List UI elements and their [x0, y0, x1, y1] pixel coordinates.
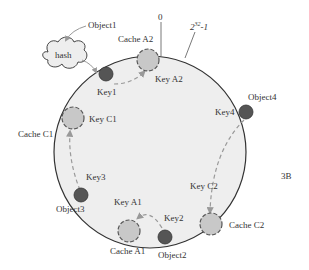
key3-label: Key3 [86, 172, 106, 182]
object4-label: Object4 [248, 92, 277, 102]
cache-a1-node [118, 220, 140, 242]
hash-cloud: hash [43, 37, 87, 68]
cache-c2-node [200, 213, 222, 235]
cache-a2-key-label: Key A2 [155, 74, 183, 84]
key1-node [99, 67, 113, 81]
cache-c1-label: Cache C1 [18, 129, 53, 139]
cache-a1-key-label: Key A1 [114, 197, 142, 207]
key2-label: Key2 [164, 213, 184, 223]
cache-c1-key-label: Key C1 [89, 114, 117, 124]
ring-max-tick [185, 32, 195, 58]
key2-node [158, 230, 172, 244]
key4-label: Key4 [215, 107, 235, 117]
key3-node [74, 188, 88, 202]
figure-label: 3B [281, 171, 292, 181]
cache-c2-key-label: Key C2 [190, 181, 218, 191]
ring-max-label: 232-1 [190, 21, 208, 32]
cache-a1-label: Cache A1 [110, 246, 145, 256]
object1-label: Object1 [88, 20, 117, 30]
cache-a2-node [137, 49, 159, 71]
consistent-hashing-diagram: 0 232-1 hash Object1 Key1 Cache A2 Key A… [0, 0, 309, 270]
key4-node [239, 105, 253, 119]
ring-zero-label: 0 [158, 12, 163, 22]
object2-label: Object2 [158, 250, 187, 260]
hash-label: hash [55, 50, 72, 60]
cache-c2-label: Cache C2 [229, 220, 264, 230]
object3-label: Object3 [56, 204, 85, 214]
hash-to-key1-arrow [82, 60, 96, 72]
key1-label: Key1 [97, 87, 117, 97]
cache-a2-label: Cache A2 [118, 34, 153, 44]
cache-c1-node [62, 107, 84, 129]
